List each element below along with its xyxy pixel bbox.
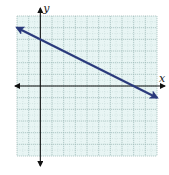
x-axis-label: x — [159, 72, 166, 85]
y-axis-label: y — [42, 2, 50, 15]
coordinate-plane: x y — [0, 0, 169, 175]
